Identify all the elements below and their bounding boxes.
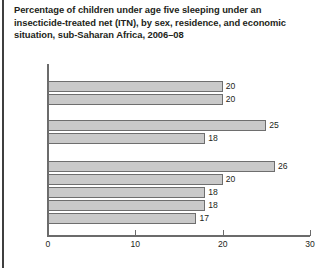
bar-second bbox=[48, 200, 205, 211]
bar-value-rural: 18 bbox=[208, 133, 218, 144]
chart-title-line-1: Percentage of children under age five sl… bbox=[14, 4, 314, 17]
x-axis-tick-30 bbox=[310, 230, 311, 236]
x-axis-tick-label-10: 10 bbox=[131, 239, 141, 249]
bar-value-poorest: 17 bbox=[199, 213, 209, 224]
bar-value-female: 20 bbox=[226, 94, 236, 105]
bar-middle bbox=[48, 187, 205, 198]
bar-value-second: 18 bbox=[208, 200, 218, 211]
chart-title-line-2: insecticide-treated net (ITN), by sex, r… bbox=[14, 17, 314, 30]
bar-chart-plot-area: 0102030 Male20Female20Urban25Rural18Rich… bbox=[0, 62, 324, 268]
bar-rural bbox=[48, 133, 205, 144]
chart-title: Percentage of children under age five sl… bbox=[14, 4, 314, 42]
bar-urban bbox=[48, 120, 266, 131]
bar-value-middle: 18 bbox=[208, 187, 218, 198]
chart-title-line-3: situation, sub-Saharan Africa, 2006–08 bbox=[14, 29, 314, 42]
x-axis-tick-label-30: 30 bbox=[305, 239, 315, 249]
bar-fourth bbox=[48, 174, 223, 185]
bar-male bbox=[48, 81, 223, 92]
bar-value-urban: 25 bbox=[269, 120, 279, 131]
x-axis-line bbox=[47, 235, 310, 237]
x-axis-tick-label-20: 20 bbox=[218, 239, 228, 249]
bar-poorest bbox=[48, 213, 196, 224]
x-axis-tick-10 bbox=[135, 230, 136, 236]
bar-richest bbox=[48, 161, 275, 172]
x-axis-tick-0 bbox=[48, 230, 49, 236]
x-axis-tick-20 bbox=[223, 230, 224, 236]
bar-female bbox=[48, 94, 223, 105]
bar-value-richest: 26 bbox=[278, 161, 288, 172]
bar-value-fourth: 20 bbox=[226, 174, 236, 185]
x-axis-tick-label-0: 0 bbox=[46, 239, 51, 249]
bar-value-male: 20 bbox=[226, 81, 236, 92]
